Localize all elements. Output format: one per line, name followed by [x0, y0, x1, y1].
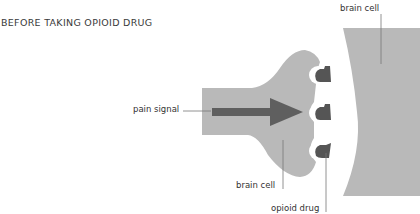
brain-cell-receiver-label: brain cell — [340, 3, 379, 13]
pain-signal-label: pain signal — [133, 104, 179, 114]
opioid-drug-label: opioid drug — [271, 203, 319, 213]
synapse-diagram — [0, 0, 420, 214]
brain-cell-sender-label: brain cell — [236, 180, 275, 190]
receiving-brain-cell — [343, 28, 420, 196]
